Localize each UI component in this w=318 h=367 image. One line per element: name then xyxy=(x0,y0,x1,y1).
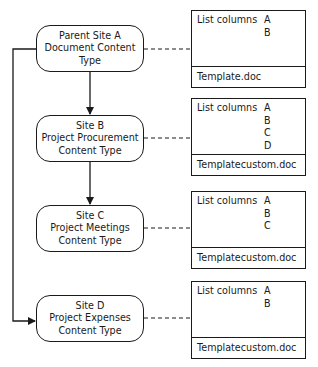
column-item: B xyxy=(264,115,271,128)
content-type-box-a: List columns A B Template.doc xyxy=(191,10,306,88)
content-type-box-b: List columns A B C D Templatecustom.doc xyxy=(191,98,306,176)
column-item: B xyxy=(264,298,271,311)
list-columns-label: List columns xyxy=(197,285,257,298)
node-parent-site-a: Parent Site A Document Content Type xyxy=(36,25,144,72)
node-line: Document Content xyxy=(45,42,136,55)
node-line: Site D xyxy=(76,300,105,313)
column-list: A B xyxy=(264,285,271,310)
node-line: Project Procurement xyxy=(41,132,138,145)
column-item: A xyxy=(264,195,271,208)
column-item: C xyxy=(264,127,271,140)
node-line: Parent Site A xyxy=(59,30,121,43)
column-item: B xyxy=(264,208,271,221)
column-item: B xyxy=(264,27,271,40)
column-list: A B C D xyxy=(264,102,271,152)
content-type-box-c: List columns A B C Templatecustom.doc xyxy=(191,191,306,269)
node-line: Site C xyxy=(76,210,104,223)
node-site-c: Site C Project Meetings Content Type xyxy=(36,205,144,252)
column-list: A B xyxy=(264,14,271,39)
template-name: Templatecustom.doc xyxy=(192,154,305,175)
edge-a-d xyxy=(13,49,36,321)
column-item: A xyxy=(264,285,271,298)
node-site-d: Site D Project Expenses Content Type xyxy=(36,295,144,342)
node-line: Project Meetings xyxy=(50,222,130,235)
node-line: Content Type xyxy=(58,145,121,158)
column-item: C xyxy=(264,220,271,233)
template-name: Templatecustom.doc xyxy=(192,247,305,268)
template-name: Template.doc xyxy=(192,66,305,87)
column-item: A xyxy=(264,14,271,27)
node-line: Content Type xyxy=(58,235,121,248)
list-columns-label: List columns xyxy=(197,102,257,115)
column-list: A B C xyxy=(264,195,271,233)
column-item: A xyxy=(264,102,271,115)
node-line: Project Expenses xyxy=(49,312,131,325)
node-line: Content Type xyxy=(58,325,121,338)
node-site-b: Site B Project Procurement Content Type xyxy=(36,115,144,162)
list-columns-label: List columns xyxy=(197,195,257,208)
column-item: D xyxy=(264,140,271,153)
content-type-box-d: List columns A B Templatecustom.doc xyxy=(191,281,306,359)
node-line: Site B xyxy=(76,120,104,133)
node-line: Type xyxy=(79,55,101,68)
template-name: Templatecustom.doc xyxy=(192,337,305,358)
list-columns-label: List columns xyxy=(197,14,257,27)
